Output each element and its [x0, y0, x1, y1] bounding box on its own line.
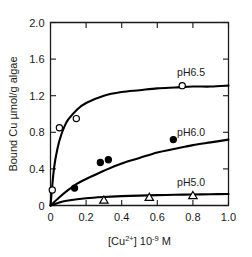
- y-tick-label-5: 2.0: [29, 17, 44, 29]
- x-tick-label-2: 0.4: [114, 211, 129, 223]
- marker-ph6-5-2: [73, 115, 79, 121]
- series-label-ph6-5: pH6.5: [177, 66, 205, 78]
- x-axis-title-text: [Cu2+] 10-9 M: [108, 233, 171, 247]
- y-tick-label-4: 1.6: [29, 53, 44, 65]
- y-tick-label-2: 0.8: [29, 126, 44, 138]
- x-axis-title: [Cu2+] 10-9 M: [108, 233, 171, 247]
- y-axis-title: Bound Cu µmol/g algae: [7, 56, 19, 171]
- y-tick-labels: 00.40.81.21.62.0: [29, 17, 44, 212]
- curve-ph5-0: [51, 194, 229, 205]
- marker-ph6-5-3: [179, 83, 185, 89]
- series-label-ph6-0: pH6.0: [177, 126, 205, 138]
- x-tick-label-0: 0: [47, 211, 53, 223]
- marker-ph6-0-0: [71, 185, 77, 191]
- marker-ph6-0-2: [105, 157, 111, 163]
- y-axis-title-text: Bound Cu µmol/g algae: [7, 56, 19, 171]
- series-markers: [49, 83, 197, 204]
- y-tick-label-0: 0: [38, 200, 44, 212]
- x-tick-labels: 00.20.40.60.81.0: [47, 211, 236, 223]
- marker-ph6-0-1: [97, 159, 103, 165]
- series-label-ph5-0: pH5.0: [177, 176, 205, 188]
- x-tick-label-1: 0.2: [78, 211, 93, 223]
- chart-plot-area: 00.20.40.60.81.0 00.40.81.21.62.0 pH6.5p…: [0, 0, 252, 257]
- x-tick-label-3: 0.6: [150, 211, 165, 223]
- marker-ph6-5-1: [56, 125, 62, 131]
- y-tick-label-3: 1.2: [29, 90, 44, 102]
- x-tick-label-4: 0.8: [185, 211, 200, 223]
- marker-ph6-0-3: [170, 137, 176, 143]
- x-tick-label-5: 1.0: [221, 211, 236, 223]
- chart-figure: 00.20.40.60.81.0 00.40.81.21.62.0 pH6.5p…: [0, 0, 252, 257]
- y-tick-label-1: 0.4: [29, 163, 44, 175]
- marker-ph6-5-0: [49, 187, 55, 193]
